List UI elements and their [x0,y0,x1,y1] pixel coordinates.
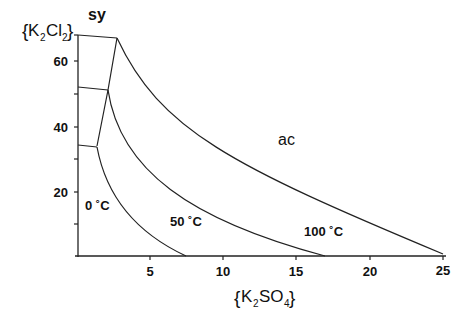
label-50c: 50 ˚C [170,214,202,229]
x-tick-20: 20 [363,264,377,279]
svg-text:{: { [234,287,241,308]
x-tick-5: 5 [146,264,153,279]
x-tick-10: 10 [216,264,230,279]
y-axis-label: { K 2 Cl 2 } [22,20,73,43]
curve-50c [108,90,325,256]
svg-text:Cl: Cl [46,21,62,40]
label-0c: 0 ˚C [85,198,110,213]
y-tick-40: 40 [54,120,68,135]
svg-text:SO: SO [259,287,284,306]
svg-text:}: } [289,287,295,308]
svg-text:K: K [28,21,40,40]
phase-diagram: 5 10 15 20 25 60 40 20 { K 2 Cl 2 } { K … [0,0,474,323]
svg-text:}: } [67,20,73,41]
region-label-ac: ac [278,131,295,148]
curve-50c-left [78,87,108,90]
svg-text:K: K [241,287,253,306]
y-tick-20: 20 [54,185,68,200]
x-tick-15: 15 [289,264,303,279]
x-tick-25: 25 [436,263,450,278]
curves [78,35,443,256]
curve-0c-left [78,145,97,147]
x-axis-label: { K 2 SO 4 } [234,287,295,309]
boundary-line [97,38,117,146]
region-label-sy: sy [88,6,106,23]
y-tick-60: 60 [54,54,68,69]
label-100c: 100 ˚C [304,224,344,239]
curve-100c-left [78,35,117,38]
